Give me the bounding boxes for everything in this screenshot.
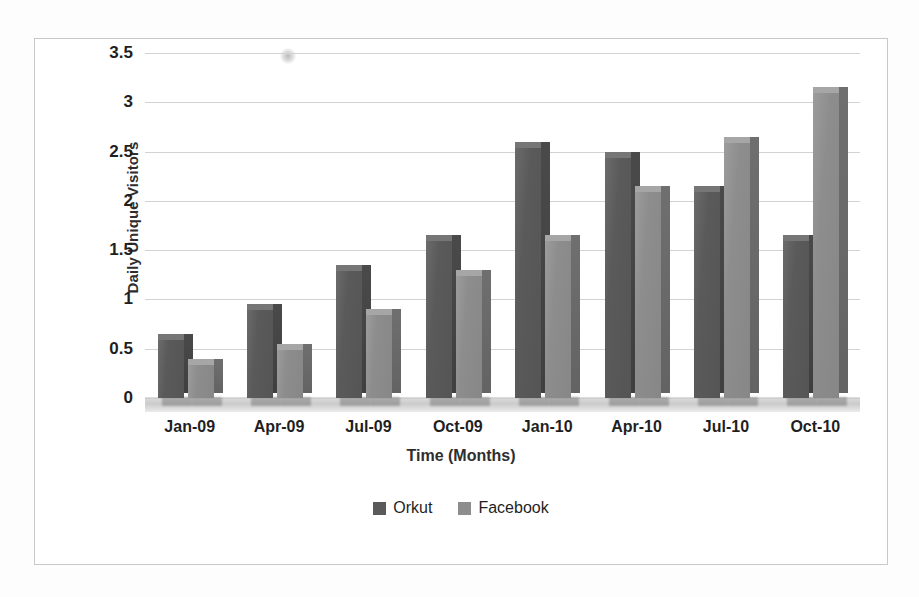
bar-face	[158, 339, 184, 398]
bar-shadow	[192, 397, 222, 406]
bar-shadow	[728, 397, 758, 406]
bar-side	[839, 87, 848, 393]
chart-legend: OrkutFacebook	[35, 499, 887, 517]
bar-face	[456, 275, 482, 398]
bar-face	[635, 191, 661, 398]
plot-area: 00.511.522.533.5 Jan-09Apr-09Jul-09Oct-0…	[145, 53, 860, 398]
bar-top	[158, 334, 184, 340]
bar-facebook-Jan-09	[188, 364, 214, 399]
y-tick-label-0.5: 0.5	[109, 339, 133, 359]
bar-group	[771, 53, 860, 398]
legend-item-facebook[interactable]: Facebook	[458, 499, 548, 517]
bar-shadow	[787, 397, 817, 406]
bar-facebook-Jul-10	[724, 142, 750, 398]
bar-orkut-Apr-10	[605, 157, 631, 399]
bar-group	[145, 53, 234, 398]
bar-top	[545, 235, 571, 241]
bar-face	[426, 240, 452, 398]
bar-face	[247, 309, 273, 398]
bar-shadow	[698, 397, 728, 406]
bar-facebook-Apr-10	[635, 191, 661, 398]
bar-shadow	[162, 397, 192, 406]
bar-top	[635, 186, 661, 192]
y-tick-label-3.5: 3.5	[109, 43, 133, 63]
bar-shadow	[430, 397, 460, 406]
bar-orkut-Oct-10	[783, 240, 809, 398]
bar-shadow	[639, 397, 669, 406]
bar-face	[277, 349, 303, 398]
y-tick-label-1.5: 1.5	[109, 240, 133, 260]
bar-face	[813, 92, 839, 398]
bar-top	[277, 344, 303, 350]
bar-face	[783, 240, 809, 398]
bar-face	[188, 364, 214, 399]
bar-face	[605, 157, 631, 399]
y-tick-label-2: 2	[124, 191, 133, 211]
bar-side	[661, 186, 670, 393]
y-tick-label-0: 0	[124, 388, 133, 408]
x-tick-label-Jul-10: Jul-10	[703, 418, 749, 436]
bar-orkut-Jan-10	[515, 147, 541, 398]
bar-side	[214, 359, 223, 394]
bar-facebook-Apr-09	[277, 349, 303, 398]
bar-shadow	[817, 397, 847, 406]
bar-shadow	[519, 397, 549, 406]
x-tick-label-Oct-10: Oct-10	[790, 418, 840, 436]
bar-group	[681, 53, 770, 398]
bar-group	[324, 53, 413, 398]
bar-face	[515, 147, 541, 398]
bar-shadow	[370, 397, 400, 406]
legend-item-orkut[interactable]: Orkut	[373, 499, 432, 517]
bar-top	[605, 152, 631, 158]
bar-top	[694, 186, 720, 192]
legend-swatch-orkut-icon	[373, 502, 386, 515]
bar-face	[336, 270, 362, 398]
bar-group	[413, 53, 502, 398]
bar-top	[336, 265, 362, 271]
bar-side	[750, 137, 759, 393]
bar-facebook-Oct-09	[456, 275, 482, 398]
bar-side	[482, 270, 491, 393]
bar-top	[724, 137, 750, 143]
y-tick-label-2.5: 2.5	[109, 142, 133, 162]
bar-group	[503, 53, 592, 398]
bar-side	[571, 235, 580, 393]
y-tick-label-3: 3	[124, 92, 133, 112]
bar-orkut-Jan-09	[158, 339, 184, 398]
bar-top	[783, 235, 809, 241]
bar-face	[724, 142, 750, 398]
x-tick-label-Apr-10: Apr-10	[611, 418, 662, 436]
chart-frame: Daily Unique Visitors 00.511.522.533.5 J…	[34, 38, 888, 565]
bar-top	[426, 235, 452, 241]
scanned-page: Daily Unique Visitors 00.511.522.533.5 J…	[0, 0, 919, 597]
bar-facebook-Jan-10	[545, 240, 571, 398]
bar-top	[188, 359, 214, 365]
x-tick-label-Oct-09: Oct-09	[433, 418, 483, 436]
bar-top	[366, 309, 392, 315]
bar-side	[303, 344, 312, 393]
bar-top	[247, 304, 273, 310]
bar-shadow	[251, 397, 281, 406]
bar-top	[515, 142, 541, 148]
legend-label: Facebook	[478, 499, 548, 517]
x-tick-label-Jan-10: Jan-10	[522, 418, 573, 436]
legend-label: Orkut	[393, 499, 432, 517]
bar-shadow	[549, 397, 579, 406]
bar-shadow	[340, 397, 370, 406]
x-axis-title: Time (Months)	[35, 447, 887, 465]
bar-side	[392, 309, 401, 393]
x-tick-label-Apr-09: Apr-09	[254, 418, 305, 436]
bar-shadow	[460, 397, 490, 406]
bar-face	[694, 191, 720, 398]
bar-face	[366, 314, 392, 398]
bar-orkut-Jul-10	[694, 191, 720, 398]
bar-group	[592, 53, 681, 398]
bar-shadow	[609, 397, 639, 406]
bar-facebook-Jul-09	[366, 314, 392, 398]
bar-face	[545, 240, 571, 398]
bar-orkut-Jul-09	[336, 270, 362, 398]
bar-group	[234, 53, 323, 398]
bar-orkut-Oct-09	[426, 240, 452, 398]
x-tick-label-Jul-09: Jul-09	[345, 418, 391, 436]
y-tick-label-1: 1	[124, 289, 133, 309]
